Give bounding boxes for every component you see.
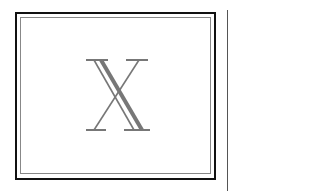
- x-letter-icon: [84, 58, 152, 132]
- vertical-divider: [227, 10, 228, 191]
